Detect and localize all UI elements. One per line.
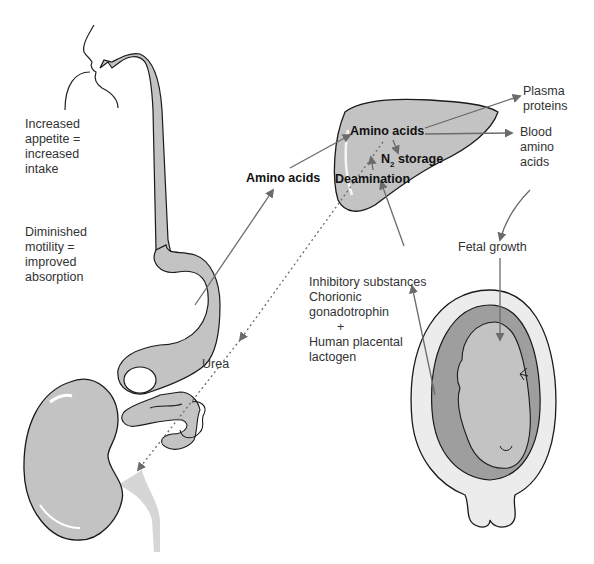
blood-amino-acids-label: Blood amino acids	[520, 125, 554, 170]
appetite-line-2: appetite =	[25, 132, 80, 147]
n2-storage-label: N2 storage	[381, 152, 443, 172]
hormone-lactogen: lactogen	[309, 350, 426, 365]
motility-label: Diminished motility = improved absorptio…	[25, 225, 87, 285]
blood-line-2: amino	[520, 140, 554, 155]
face-profile-icon	[65, 25, 118, 110]
motility-line-1: Diminished	[25, 225, 87, 240]
n2-suffix: storage	[394, 152, 443, 166]
arrow-intestine-to-amino-acids	[195, 190, 273, 305]
urea-label: Urea	[202, 357, 229, 372]
n2-prefix: N	[381, 152, 390, 166]
blood-line-1: Blood	[520, 125, 554, 140]
deamination-label: Deamination	[335, 172, 410, 187]
motility-line-4: absorption	[25, 270, 87, 285]
hormone-human-placental: Human placental	[309, 335, 426, 350]
appetite-line-1: Increased	[25, 117, 80, 132]
plasma-line-2: proteins	[523, 99, 567, 114]
hormones-label: Inhibitory substances Chorionic gonadotr…	[309, 275, 426, 365]
esophagus-icon	[100, 54, 172, 258]
appetite-line-4: intake	[25, 162, 80, 177]
diagram-canvas: Increased appetite = increased intake Di…	[0, 0, 594, 564]
amino-acids-absorbed-label: Amino acids	[246, 171, 320, 186]
appetite-label: Increased appetite = increased intake	[25, 117, 80, 177]
arrow-blood-to-fetal-growth	[500, 190, 530, 240]
hormone-plus: +	[309, 320, 426, 335]
appetite-line-3: increased	[25, 147, 80, 162]
hormone-chorionic: Chorionic	[309, 290, 426, 305]
plasma-proteins-label: Plasma proteins	[523, 84, 567, 114]
uterus-fetus-icon	[411, 290, 556, 527]
hormone-gonadotrophin: gonadotrophin	[309, 305, 426, 320]
hormone-inhibitory: Inhibitory substances	[309, 275, 426, 290]
plasma-line-1: Plasma	[523, 84, 567, 99]
motility-line-2: motility =	[25, 240, 87, 255]
diagram-artwork	[0, 0, 594, 564]
motility-line-3: improved	[25, 255, 87, 270]
blood-line-3: acids	[520, 155, 554, 170]
liver-amino-acids-label: Amino acids	[350, 124, 424, 139]
fetal-growth-label: Fetal growth	[458, 240, 527, 255]
